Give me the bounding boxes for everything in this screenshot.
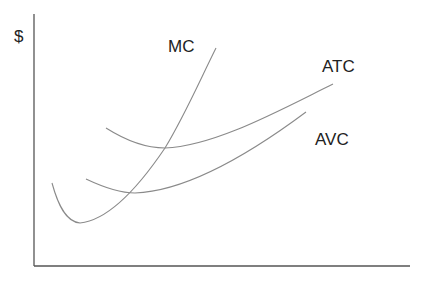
mc-curve [52, 48, 216, 223]
atc-curve [106, 84, 333, 148]
cost-curves-chart [0, 0, 429, 284]
y-axis-label: $ [14, 28, 23, 45]
avc-label: AVC [315, 131, 349, 148]
avc-curve [86, 112, 306, 193]
mc-label: MC [168, 38, 194, 55]
atc-label: ATC [322, 58, 355, 75]
